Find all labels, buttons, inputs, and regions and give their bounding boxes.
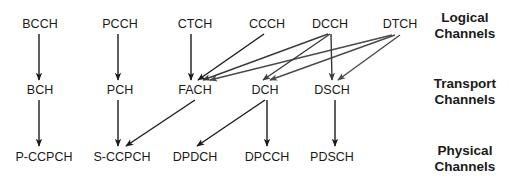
layer-label-transport: TransportChannels: [434, 76, 497, 107]
arrow-dcch-to-dch: [263, 34, 330, 80]
node-pdsch: PDSCH: [310, 150, 354, 164]
node-fach: FACH: [178, 83, 211, 97]
node-bcch: BCCH: [22, 17, 57, 31]
layer-labels: LogicalChannelsTransportChannelsPhysical…: [434, 10, 497, 174]
channel-mapping-diagram: BCCHPCCHCTCHCCCHDCCHDTCHBCHPCHFACHDCHDSC…: [0, 0, 510, 177]
arrow-fach-to-s-ccpch: [126, 100, 195, 146]
layer-label-logical: LogicalChannels: [435, 10, 496, 41]
node-pcch: PCCH: [102, 17, 137, 31]
node-dcch: DCCH: [312, 17, 348, 31]
arrow-dch-to-dpdch: [197, 100, 265, 146]
arrow-dtch-to-dsch: [338, 35, 400, 80]
layer-label-line2: Channels: [435, 159, 496, 174]
node-dtch: DTCH: [383, 17, 418, 31]
arrow-dcch-to-fach: [203, 34, 328, 80]
layer-label-line2: Channels: [435, 92, 496, 107]
node-p-ccpch: P-CCPCH: [16, 150, 73, 164]
node-dsch: DSCH: [314, 83, 349, 97]
node-dpdch: DPDCH: [173, 150, 217, 164]
node-ctch: CTCH: [178, 17, 213, 31]
layer-label-line1: Transport: [434, 76, 497, 91]
node-bch: BCH: [27, 83, 53, 97]
node-dch: DCH: [251, 83, 278, 97]
arrow-dcch-to-dsch: [331, 34, 332, 80]
arrow-dtch-to-fach: [210, 35, 392, 80]
node-s-ccpch: S-CCPCH: [94, 150, 151, 164]
layer-label-line1: Physical: [438, 143, 493, 158]
node-pch: PCH: [107, 83, 133, 97]
layer-label-physical: PhysicalChannels: [435, 143, 496, 174]
arrow-ccch-to-fach: [198, 34, 264, 80]
node-ccch: CCCH: [249, 17, 285, 31]
node-dpcch: DPCCH: [245, 150, 289, 164]
layer-label-line1: Logical: [441, 10, 488, 25]
channel-nodes: BCCHPCCHCTCHCCCHDCCHDTCHBCHPCHFACHDCHDSC…: [16, 17, 418, 164]
layer-label-line2: Channels: [435, 26, 496, 41]
